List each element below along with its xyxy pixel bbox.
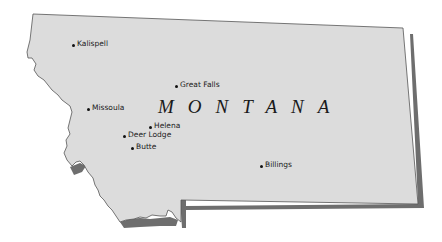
city-label: Helena — [154, 121, 180, 130]
state-label: MONTANA — [158, 96, 343, 118]
city-label: Deer Lodge — [128, 130, 171, 139]
city-marker-icon — [123, 135, 126, 138]
city-marker-icon — [87, 108, 90, 111]
city-kalispell: Kalispell — [72, 40, 108, 48]
city-great-falls: Great Falls — [175, 81, 220, 89]
city-helena: Helena — [149, 122, 180, 130]
city-deer-lodge: Deer Lodge — [123, 131, 171, 139]
city-label: Missoula — [92, 103, 124, 112]
city-label: Billings — [265, 160, 292, 169]
montana-map — [0, 0, 442, 242]
city-label: Great Falls — [180, 80, 220, 89]
city-label: Butte — [136, 142, 156, 151]
city-marker-icon — [175, 85, 178, 88]
city-butte: Butte — [131, 143, 156, 151]
city-marker-icon — [260, 165, 263, 168]
city-marker-icon — [72, 44, 75, 47]
city-marker-icon — [131, 147, 134, 150]
city-marker-icon — [149, 126, 152, 129]
city-billings: Billings — [260, 161, 292, 169]
city-missoula: Missoula — [87, 104, 124, 112]
city-label: Kalispell — [77, 39, 108, 48]
